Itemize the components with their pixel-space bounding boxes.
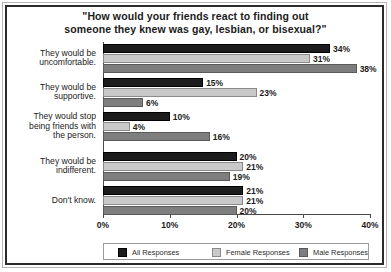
bar bbox=[103, 88, 257, 97]
bar bbox=[103, 172, 230, 181]
bar-value-label: 20% bbox=[240, 153, 257, 162]
x-tick-label: 20% bbox=[228, 220, 245, 230]
bar bbox=[103, 112, 170, 121]
category-label-line: supportive. bbox=[6, 92, 96, 102]
category-label-line: the person. bbox=[6, 131, 96, 141]
bar-value-label: 20% bbox=[240, 207, 257, 216]
bar bbox=[103, 196, 243, 205]
category-label: They would stopbeing friends withthe per… bbox=[6, 112, 96, 141]
x-tick-label: 0% bbox=[97, 220, 109, 230]
legend-swatch-all bbox=[118, 248, 127, 257]
legend-swatch-male bbox=[299, 248, 308, 257]
category-label-line: indifferent. bbox=[6, 166, 96, 176]
legend-item: All Responses bbox=[118, 247, 179, 258]
bar bbox=[103, 64, 357, 73]
chart-title-line-1: "How would your friends react to finding… bbox=[10, 10, 381, 23]
category-label: They would beindifferent. bbox=[6, 157, 96, 176]
chart-screenshot: "How would your friends react to finding… bbox=[0, 0, 391, 272]
bar-value-label: 21% bbox=[246, 187, 263, 196]
bar-value-label: 21% bbox=[246, 197, 263, 206]
bar-value-label: 6% bbox=[146, 99, 158, 108]
bar bbox=[103, 186, 243, 195]
legend-item: Female Responses bbox=[212, 247, 290, 258]
bar-value-label: 21% bbox=[246, 163, 263, 172]
bar-value-label: 31% bbox=[313, 55, 330, 64]
x-tick bbox=[103, 214, 104, 218]
category-label: Don't know. bbox=[6, 196, 96, 206]
x-tick bbox=[370, 214, 371, 218]
chart-title: "How would your friends react to finding… bbox=[10, 10, 381, 36]
bar-value-label: 34% bbox=[333, 45, 350, 54]
x-tick-label: 30% bbox=[295, 220, 312, 230]
bar-value-label: 10% bbox=[173, 113, 190, 122]
x-tick bbox=[237, 214, 238, 218]
legend-label: Male Responses bbox=[313, 248, 368, 257]
x-tick bbox=[170, 214, 171, 218]
legend-label: All Responses bbox=[132, 248, 179, 257]
bar bbox=[103, 132, 210, 141]
bar-value-label: 4% bbox=[133, 123, 145, 132]
category-label-line: uncomfortable. bbox=[6, 58, 96, 68]
chart-title-line-2: someone they knew was gay, lesbian, or b… bbox=[10, 23, 381, 36]
x-tick-label: 40% bbox=[361, 220, 378, 230]
bar bbox=[103, 44, 330, 53]
legend-swatch-female bbox=[212, 248, 221, 257]
bar bbox=[103, 54, 310, 63]
category-label: They would beuncomfortable. bbox=[6, 49, 96, 68]
bar-value-label: 16% bbox=[213, 133, 230, 142]
bar bbox=[103, 78, 203, 87]
bar-value-label: 19% bbox=[233, 173, 250, 182]
legend-item: Male Responses bbox=[299, 247, 368, 258]
bar-value-label: 15% bbox=[206, 79, 223, 88]
bar bbox=[103, 98, 143, 107]
chart-legend: All ResponsesFemale ResponsesMale Respon… bbox=[103, 243, 369, 260]
bar-value-label: 23% bbox=[260, 89, 277, 98]
x-tick-label: 10% bbox=[161, 220, 178, 230]
bar bbox=[103, 122, 130, 131]
bar-value-label: 38% bbox=[360, 65, 377, 74]
legend-label: Female Responses bbox=[226, 248, 290, 257]
category-label-line: Don't know. bbox=[6, 196, 96, 206]
x-tick bbox=[303, 214, 304, 218]
category-label: They would besupportive. bbox=[6, 83, 96, 102]
bar bbox=[103, 152, 237, 161]
bar bbox=[103, 162, 243, 171]
